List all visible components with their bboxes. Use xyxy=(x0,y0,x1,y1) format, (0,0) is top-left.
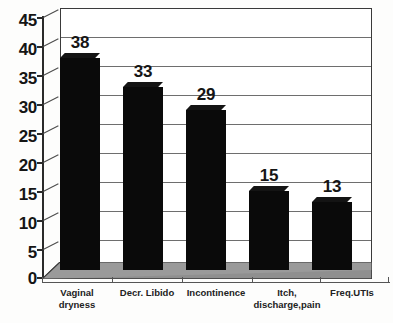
bar-value-label: 13 xyxy=(307,178,357,195)
bar-value-label: 38 xyxy=(55,34,105,51)
bar xyxy=(312,202,352,270)
bar xyxy=(249,191,289,270)
x-axis-labels: Vaginal dryness Decr. Libido Incontinenc… xyxy=(0,282,393,323)
bar xyxy=(186,110,226,270)
x-category-line: dryness xyxy=(42,299,112,311)
x-category-line: Vaginal xyxy=(42,287,112,299)
x-category-line: discharge,pain xyxy=(241,299,333,311)
bars-layer: 38 33 29 15 13 xyxy=(0,0,393,323)
x-category-label: Vaginal dryness xyxy=(42,287,112,311)
x-category-label: Freq.UTIs xyxy=(316,287,388,299)
bar-value-label: 33 xyxy=(118,63,168,80)
bar-value-label: 15 xyxy=(244,167,294,184)
x-category-label: Decr. Libido xyxy=(110,287,184,299)
bar xyxy=(123,87,163,270)
bar xyxy=(60,58,100,270)
bar-chart: 45 40 35 30 25 20 15 10 5 0 xyxy=(0,0,393,323)
bar-value-label: 29 xyxy=(181,86,231,103)
x-category-line: Decr. Libido xyxy=(110,287,184,299)
x-category-line: Freq.UTIs xyxy=(316,287,388,299)
